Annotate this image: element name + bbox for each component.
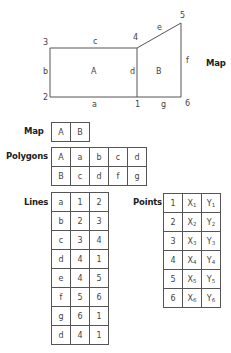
table-cell: e — [52, 269, 71, 288]
coord-subscript: 2 — [193, 221, 197, 227]
point-id-cell: 4 — [164, 251, 183, 270]
table-cell: 3 — [90, 212, 109, 231]
table-cell: d — [52, 250, 71, 269]
point-id-cell: 2 — [164, 213, 183, 232]
points-table: 1X1Y12X2Y23X3Y34X4Y45X5Y56X6Y6 — [163, 193, 221, 308]
coord-subscript: 1 — [212, 202, 216, 208]
point-label-6: 6 — [185, 100, 190, 108]
point-id-cell: 5 — [164, 270, 183, 289]
table-cell: f — [52, 288, 71, 307]
coord-subscript: 6 — [193, 297, 197, 303]
table-row: Aabcd — [52, 148, 147, 167]
table-cell: f — [109, 167, 128, 186]
table-row: d41 — [52, 250, 109, 269]
line-label-b: b — [43, 68, 48, 76]
table-cell: c — [71, 167, 90, 186]
coord-subscript: 5 — [193, 278, 197, 284]
table-cell: 4 — [71, 250, 90, 269]
point-y-cell: Y6 — [202, 289, 221, 308]
table-row: Bcdfg — [52, 167, 147, 186]
coord-subscript: 2 — [212, 221, 216, 227]
point-id-cell: 3 — [164, 232, 183, 251]
table-cell: A — [52, 123, 71, 142]
coord-subscript: 4 — [212, 259, 216, 265]
table-row: A B — [52, 123, 90, 142]
table-cell: 2 — [90, 193, 109, 212]
lines-table-title: Lines — [24, 198, 48, 207]
point-x-cell: X4 — [183, 251, 202, 270]
point-x-cell: X5 — [183, 270, 202, 289]
point-label-1: 1 — [135, 101, 140, 109]
table-cell: 4 — [71, 269, 90, 288]
table-cell: b — [90, 148, 109, 167]
table-cell: b — [52, 212, 71, 231]
table-cell: 1 — [90, 326, 109, 345]
coord-subscript: 5 — [212, 278, 216, 284]
table-cell: a — [71, 148, 90, 167]
line-label-d: d — [130, 68, 135, 76]
coord-subscript: 6 — [212, 297, 216, 303]
map-table: A B — [51, 122, 90, 142]
table-cell: 6 — [71, 307, 90, 326]
table-cell: 1 — [90, 307, 109, 326]
table-cell: a — [52, 193, 71, 212]
point-y-cell: Y1 — [202, 194, 221, 213]
line-label-a: a — [92, 101, 97, 109]
table-cell: d — [52, 326, 71, 345]
point-y-cell: Y2 — [202, 213, 221, 232]
polygon-label-a: A — [91, 68, 96, 76]
table-cell: B — [52, 167, 71, 186]
table-row: 4X4Y4 — [164, 251, 221, 270]
coord-subscript: 3 — [193, 240, 197, 246]
point-label-4: 4 — [133, 34, 138, 42]
point-label-3: 3 — [43, 39, 48, 47]
point-y-cell: Y5 — [202, 270, 221, 289]
point-y-cell: Y4 — [202, 251, 221, 270]
table-row: 6X6Y6 — [164, 289, 221, 308]
table-row: a12 — [52, 193, 109, 212]
table-cell: B — [71, 123, 90, 142]
coord-subscript: 4 — [193, 259, 197, 265]
map-diagram — [0, 0, 231, 110]
table-row: c34 — [52, 231, 109, 250]
table-cell: 1 — [90, 250, 109, 269]
table-cell: d — [128, 148, 147, 167]
table-cell: 2 — [71, 212, 90, 231]
table-cell: 3 — [71, 231, 90, 250]
points-table-title: Points — [133, 198, 162, 207]
table-cell: c — [109, 148, 128, 167]
line-label-g: g — [161, 101, 166, 109]
point-label-2: 2 — [43, 94, 48, 102]
line-label-f: f — [186, 57, 189, 65]
map-table-title: Map — [24, 127, 44, 136]
map-diagram-title: Map — [206, 59, 226, 68]
point-x-cell: X1 — [183, 194, 202, 213]
table-cell: 4 — [71, 326, 90, 345]
table-cell: 5 — [90, 269, 109, 288]
point-id-cell: 1 — [164, 194, 183, 213]
line-label-e: e — [157, 24, 162, 32]
point-x-cell: X6 — [183, 289, 202, 308]
table-cell: g — [52, 307, 71, 326]
table-cell: c — [52, 231, 71, 250]
coord-subscript: 3 — [212, 240, 216, 246]
point-x-cell: X2 — [183, 213, 202, 232]
point-x-cell: X3 — [183, 232, 202, 251]
point-label-5: 5 — [180, 12, 185, 20]
table-cell: 6 — [90, 288, 109, 307]
point-id-cell: 6 — [164, 289, 183, 308]
point-y-cell: Y3 — [202, 232, 221, 251]
line-label-c: c — [93, 38, 97, 46]
polygon-label-b: B — [156, 68, 162, 76]
table-row: e45 — [52, 269, 109, 288]
table-row: 3X3Y3 — [164, 232, 221, 251]
table-row: 2X2Y2 — [164, 213, 221, 232]
table-cell: 4 — [90, 231, 109, 250]
table-row: d41 — [52, 326, 109, 345]
table-cell: d — [90, 167, 109, 186]
table-row: f56 — [52, 288, 109, 307]
table-cell: g — [128, 167, 147, 186]
table-row: 5X5Y5 — [164, 270, 221, 289]
table-cell: 5 — [71, 288, 90, 307]
lines-table: a12b23c34d41e45f56g61d41 — [51, 192, 109, 345]
